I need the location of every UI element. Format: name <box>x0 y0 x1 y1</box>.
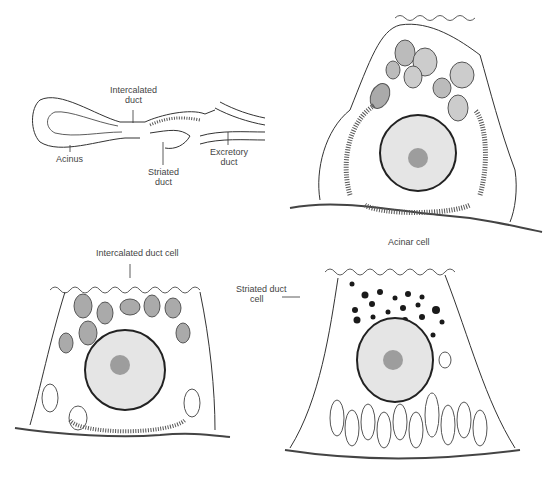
intercalated-duct-cell-caption: Intercalated duct cell <box>96 248 179 258</box>
striated-duct-cell-caption-line1: Striated duct <box>236 284 287 294</box>
acinar-cell-caption: Acinar cell <box>388 237 430 247</box>
excretory-duct-label-line1: Excretory <box>210 147 248 157</box>
striated-duct-label-line2: duct <box>148 177 179 187</box>
acinus-label: Acinus <box>56 154 83 164</box>
striated-duct-cell-caption-line2: cell <box>236 294 287 304</box>
striated-duct-label-line1: Striated <box>148 167 179 177</box>
striated-duct-cell-caption: Striated duct cell <box>236 284 287 304</box>
intercalated-duct-label-line2: duct <box>110 95 157 105</box>
acinar-cell-diagram: Acinar cell <box>280 0 551 250</box>
striated-duct-cell-diagram: Striated duct cell <box>230 250 551 480</box>
intercalated-duct-label-line1: Intercalated <box>110 85 157 95</box>
intercalated-duct-label: Intercalated duct <box>110 85 157 105</box>
acinar-cell-drawing <box>280 0 551 250</box>
duct-system-diagram: Intercalated duct Acinus Striated duct E… <box>0 70 280 220</box>
excretory-duct-label: Excretory duct <box>210 147 248 167</box>
striated-duct-label: Striated duct <box>148 167 179 187</box>
excretory-duct-label-line2: duct <box>210 157 248 167</box>
